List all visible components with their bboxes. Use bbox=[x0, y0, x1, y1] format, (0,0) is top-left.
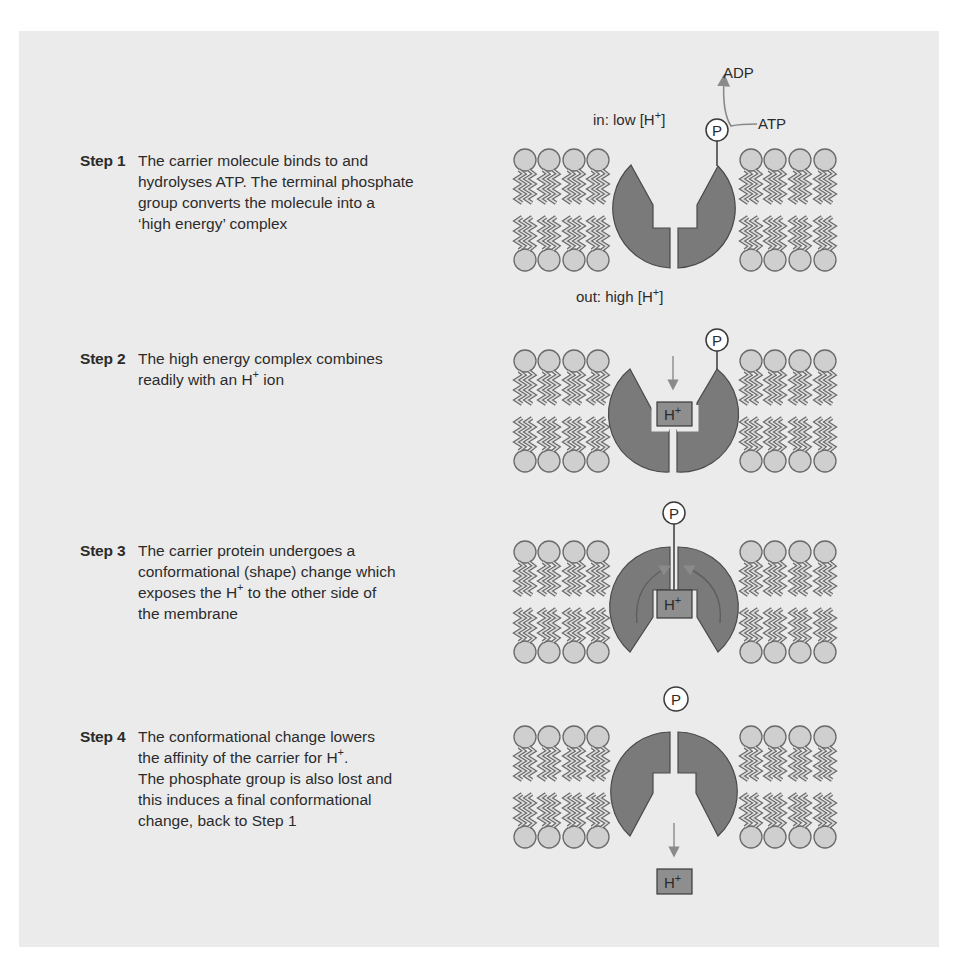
svg-text:P: P bbox=[712, 332, 722, 349]
carrier-right-half bbox=[678, 732, 737, 836]
carrier-left-half bbox=[613, 165, 670, 268]
step-3-diagram: H+ P bbox=[514, 502, 836, 663]
inside-label: in: low [H+] bbox=[593, 109, 665, 128]
carrier-right-half bbox=[678, 166, 735, 268]
lipid-bilayer bbox=[514, 726, 836, 848]
adp-label: ADP bbox=[723, 64, 754, 81]
svg-text:P: P bbox=[671, 691, 681, 708]
carrier-left-half bbox=[611, 732, 670, 836]
atp-to-adp-arrow bbox=[724, 80, 757, 126]
proton-pump-diagram: P ADP ATP in: low [H+] out: high [H+] H+… bbox=[0, 0, 976, 960]
atp-label: ATP bbox=[758, 115, 786, 132]
step-2-diagram: H+ P bbox=[514, 329, 836, 472]
outside-label: out: high [H+] bbox=[576, 286, 663, 305]
svg-text:P: P bbox=[712, 122, 722, 139]
step-1-diagram: P ADP ATP in: low [H+] out: high [H+] bbox=[514, 64, 836, 305]
lipid-bilayer bbox=[514, 149, 836, 271]
step-4-diagram: P H+ bbox=[514, 687, 836, 894]
svg-text:P: P bbox=[669, 505, 679, 522]
